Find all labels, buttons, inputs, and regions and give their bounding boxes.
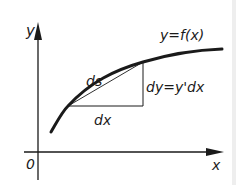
arc-label: ds bbox=[86, 73, 102, 89]
y-axis-label: y bbox=[25, 22, 36, 40]
differential-triangle bbox=[68, 62, 143, 106]
x-axis-arrow-icon bbox=[206, 148, 224, 156]
y-axis-arrow-icon bbox=[34, 22, 42, 40]
origin-label: 0 bbox=[26, 156, 35, 172]
dx-label: dx bbox=[94, 112, 112, 128]
chord-ds bbox=[68, 62, 143, 106]
scan-edge bbox=[232, 0, 236, 185]
arc-length-diagram: y x 0 y=f(x) ds dx dy=y'dx bbox=[0, 0, 236, 185]
y-axis bbox=[34, 22, 42, 180]
x-axis-label: x bbox=[211, 157, 221, 173]
diagram-canvas: y x 0 y=f(x) ds dx dy=y'dx bbox=[0, 0, 236, 185]
dy-label: dy=y'dx bbox=[146, 79, 205, 95]
x-axis bbox=[24, 148, 224, 156]
curve-label: y=f(x) bbox=[159, 27, 204, 43]
